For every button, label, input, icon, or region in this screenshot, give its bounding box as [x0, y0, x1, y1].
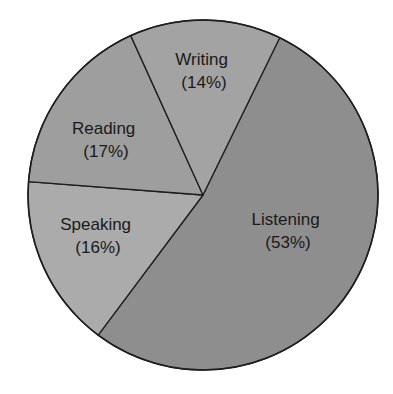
label-writing-percent: (14%)	[181, 73, 226, 92]
label-reading-name: Reading	[72, 119, 135, 138]
label-listening-percent: (53%)	[265, 233, 310, 252]
label-speaking-name: Speaking	[60, 215, 131, 234]
label-listening-name: Listening	[252, 210, 320, 229]
label-writing-name: Writing	[175, 50, 228, 69]
pie-chart: Listening (53%) Speaking (16%) Reading (…	[0, 0, 393, 394]
label-reading-percent: (17%)	[83, 142, 128, 161]
label-speaking-percent: (16%)	[75, 238, 120, 257]
